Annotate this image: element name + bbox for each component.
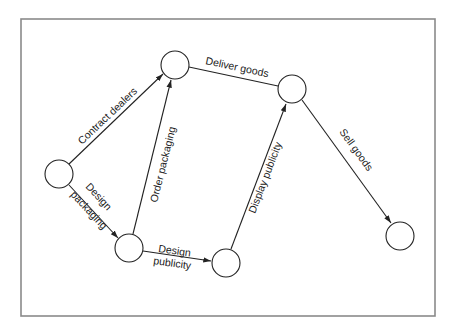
node-3 xyxy=(115,234,143,262)
node-2 xyxy=(161,51,189,79)
node-4 xyxy=(212,249,240,277)
network-diagram: Contract dealers Design packaging Order … xyxy=(0,0,452,327)
node-6 xyxy=(386,222,414,250)
node-1 xyxy=(45,160,73,188)
node-5 xyxy=(278,75,306,103)
